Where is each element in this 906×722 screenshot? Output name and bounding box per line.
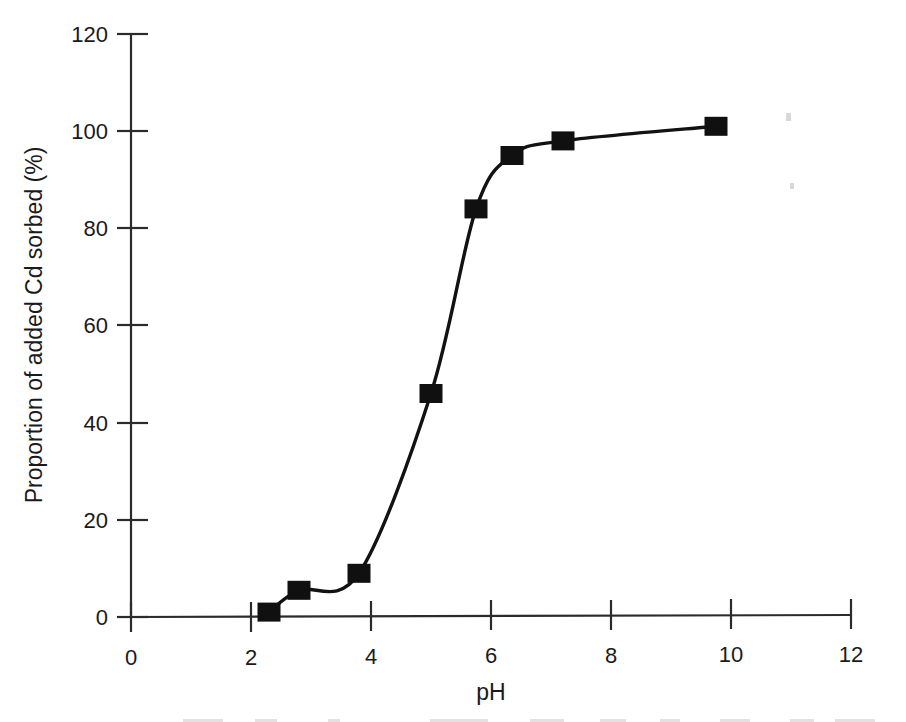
y-axis-ticks [117, 34, 148, 617]
x-axis-tick-labels: 0 2 4 6 8 10 12 [125, 642, 863, 670]
x-tick-label: 10 [719, 642, 743, 667]
y-tick-label: 120 [71, 22, 108, 47]
y-tick-label: 60 [84, 313, 108, 338]
y-tick-label: 0 [96, 605, 108, 630]
y-tick-label: 20 [84, 508, 108, 533]
x-tick-label: 12 [839, 642, 863, 667]
sorption-edge-plot: 120 100 80 60 40 20 0 0 2 4 6 8 10 12 [0, 0, 906, 722]
data-point [705, 117, 728, 136]
x-axis-title: pH [476, 679, 505, 705]
y-axis-tick-labels: 120 100 80 60 40 20 0 [71, 22, 108, 630]
data-line-cd-sorption [269, 126, 716, 612]
data-point [258, 603, 281, 622]
x-tick-label: 6 [485, 643, 497, 668]
y-tick-label: 100 [71, 119, 108, 144]
data-point [348, 564, 371, 583]
scan-artifact-speck [786, 113, 791, 121]
data-point [501, 146, 524, 165]
y-tick-label: 80 [84, 216, 108, 241]
y-tick-label: 40 [84, 411, 108, 436]
data-point [465, 199, 488, 218]
y-axis-title: Proportion of added Cd sorbed (%) [21, 147, 47, 504]
data-point [552, 131, 575, 150]
scan-artifact-speck [790, 183, 794, 189]
x-tick-label: 0 [125, 645, 137, 670]
chart-figure: 120 100 80 60 40 20 0 0 2 4 6 8 10 12 [0, 0, 906, 722]
data-point [420, 384, 443, 403]
data-point [288, 581, 311, 600]
x-tick-label: 4 [365, 644, 377, 669]
data-markers [258, 117, 728, 622]
x-tick-label: 2 [245, 645, 257, 670]
x-tick-label: 8 [605, 643, 617, 668]
